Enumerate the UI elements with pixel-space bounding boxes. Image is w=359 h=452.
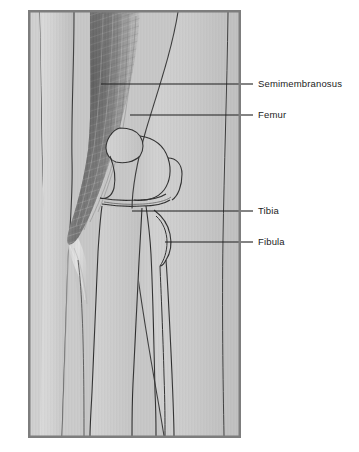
label-fibula: Fibula (258, 237, 285, 247)
label-tibia: Tibia (258, 206, 279, 216)
anatomy-illustration (28, 10, 241, 438)
figure-stage: Semimembranosus Femur Tibia Fibula (0, 0, 359, 452)
label-semimembranosus: Semimembranosus (258, 79, 342, 89)
label-femur: Femur (258, 110, 286, 120)
